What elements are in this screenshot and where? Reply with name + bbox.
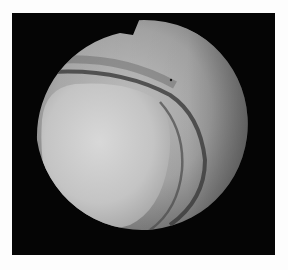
endoscopic-view	[0, 0, 288, 270]
tissue-mass	[41, 83, 170, 229]
aperture-field	[34, 20, 254, 240]
dark-spot	[170, 79, 172, 81]
